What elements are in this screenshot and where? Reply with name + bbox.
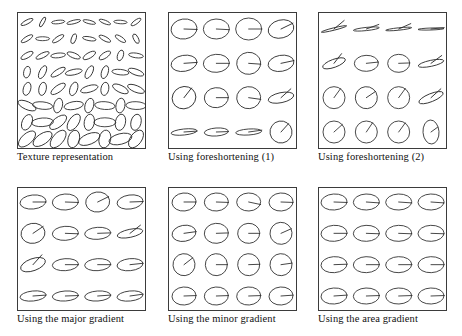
- panel-major-gradient: [17, 187, 146, 311]
- caption-foreshortening-2: Using foreshortening (2): [318, 151, 424, 163]
- caption-foreshortening-1: Using foreshortening (1): [168, 151, 274, 163]
- panel-texture: [17, 12, 146, 149]
- caption-texture: Texture representation: [17, 151, 113, 163]
- caption-minor-gradient: Using the minor gradient: [168, 313, 276, 325]
- panel-foreshortening-1-plot: [168, 12, 297, 149]
- panel-foreshortening-2-plot: [318, 12, 447, 149]
- panel-texture-plot: [17, 12, 146, 149]
- panel-minor-gradient: [168, 187, 297, 311]
- caption-major-gradient: Using the major gradient: [17, 313, 124, 325]
- panel-area-gradient: [318, 187, 447, 311]
- panel-major-gradient-plot: [17, 187, 146, 311]
- figure-container: Texture representation Using foreshorten…: [0, 0, 462, 336]
- panel-foreshortening-2: [318, 12, 447, 149]
- caption-area-gradient: Using the area gradient: [318, 313, 418, 325]
- panel-area-gradient-plot: [318, 187, 447, 311]
- panel-minor-gradient-plot: [168, 187, 297, 311]
- panel-foreshortening-1: [168, 12, 297, 149]
